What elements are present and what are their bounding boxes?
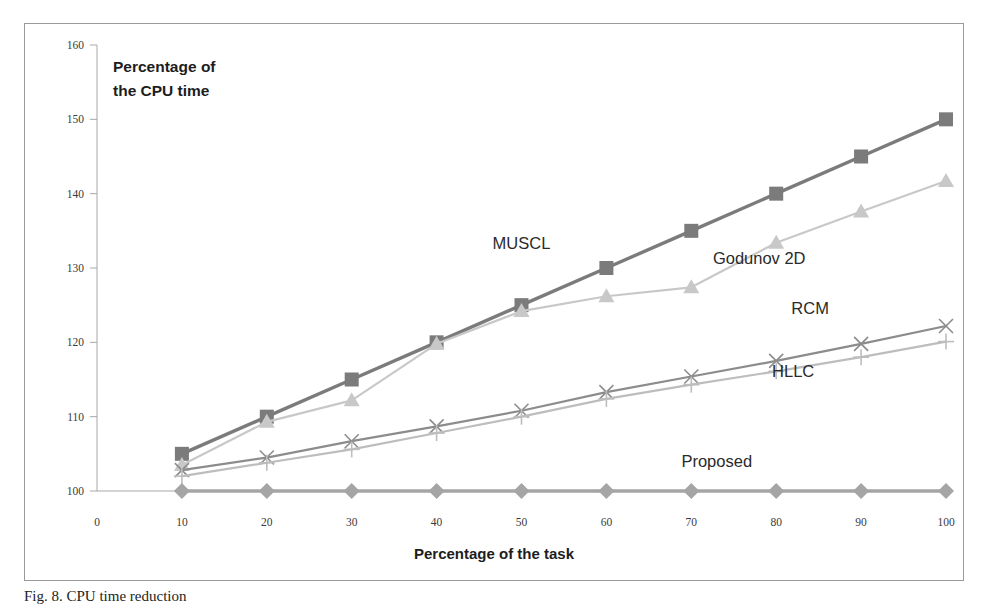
figure-caption: Fig. 8. CPU time reduction — [24, 586, 964, 604]
y-tick-label: 140 — [67, 188, 85, 200]
x-tick-label: 30 — [346, 516, 358, 528]
series-label-muscl: MUSCL — [493, 234, 551, 252]
series-proposed — [174, 483, 954, 499]
data-point-marker — [938, 334, 954, 350]
y-axis: 100110120130140150160 — [67, 39, 97, 497]
data-point-marker — [259, 483, 275, 499]
y-tick-label: 160 — [67, 39, 85, 51]
data-point-marker — [683, 377, 699, 393]
series-annotations: MUSCLGodunov 2DRCMHLLCProposed — [493, 234, 829, 470]
x-tick-label: 100 — [937, 516, 955, 528]
data-point-marker — [853, 349, 869, 365]
data-point-marker — [854, 150, 868, 164]
series-godunov-2d — [174, 173, 954, 471]
x-tick-label: 80 — [770, 516, 782, 528]
series-hllc — [174, 334, 954, 485]
data-point-marker — [683, 279, 699, 293]
x-tick-label: 0 — [94, 516, 100, 528]
x-tick-label: 90 — [855, 516, 867, 528]
x-axis-title: Percentage of the task — [414, 545, 575, 562]
figure-border-box: 100110120130140150160 010203040506070809… — [24, 23, 964, 581]
series-label-hllc: HLLC — [772, 362, 814, 380]
chart-note-line-1: Percentage of — [113, 58, 216, 75]
y-tick-label: 100 — [67, 485, 85, 497]
cpu-time-line-chart: 100110120130140150160 010203040506070809… — [25, 24, 963, 580]
x-tick-label: 60 — [601, 516, 613, 528]
series-lines — [174, 112, 954, 499]
y-tick-label: 120 — [67, 336, 85, 348]
data-point-marker — [769, 187, 783, 201]
y-tick-label: 110 — [67, 411, 84, 423]
series-label-godunov-2d: Godunov 2D — [713, 249, 806, 267]
x-tick-label: 70 — [686, 516, 698, 528]
x-tick-label: 10 — [176, 516, 188, 528]
y-tick-label: 130 — [67, 262, 85, 274]
data-point-marker — [683, 483, 699, 499]
series-rcm — [175, 319, 953, 477]
data-point-marker — [514, 483, 530, 499]
data-point-marker — [938, 483, 954, 499]
data-point-marker — [938, 173, 954, 187]
series-label-rcm: RCM — [791, 299, 829, 317]
series-label-proposed: Proposed — [681, 452, 752, 470]
data-point-marker — [684, 224, 698, 238]
x-tick-label: 20 — [261, 516, 273, 528]
data-point-marker — [344, 392, 360, 406]
x-axis: 0102030405060708090100 — [94, 491, 955, 528]
data-point-marker — [768, 483, 784, 499]
x-tick-label: 50 — [516, 516, 528, 528]
figure-root: 100110120130140150160 010203040506070809… — [0, 0, 991, 604]
data-point-marker — [344, 441, 360, 457]
data-point-marker — [174, 483, 190, 499]
data-point-marker — [853, 483, 869, 499]
data-point-marker — [598, 483, 614, 499]
data-point-marker — [344, 483, 360, 499]
data-point-marker — [429, 483, 445, 499]
data-point-marker — [345, 373, 359, 387]
data-point-marker — [939, 112, 953, 126]
chart-note-line-2: the CPU time — [113, 82, 210, 99]
x-tick-label: 40 — [431, 516, 443, 528]
data-point-marker — [599, 261, 613, 275]
y-tick-label: 150 — [67, 113, 85, 125]
